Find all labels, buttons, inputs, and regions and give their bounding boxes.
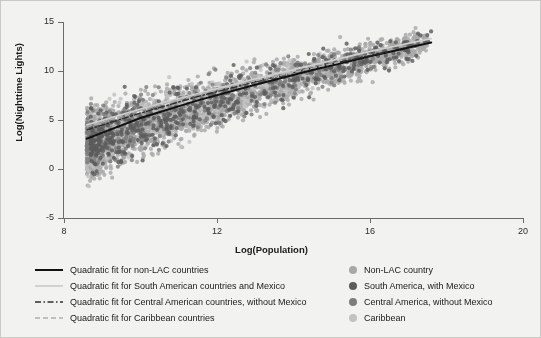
fit-line bbox=[87, 43, 431, 139]
y-tick bbox=[58, 120, 63, 121]
legend-marker-label: South America, with Mexico bbox=[364, 281, 475, 291]
y-tick bbox=[58, 218, 63, 219]
legend-marker-column: Non-LAC countrySouth America, with Mexic… bbox=[349, 262, 539, 326]
legend-line-swatch bbox=[35, 264, 63, 276]
legend-fit-label: Quadratic fit for non-LAC countries bbox=[70, 265, 209, 275]
chart-legend: Quadratic fit for non-LAC countriesQuadr… bbox=[1, 262, 541, 332]
plot-area bbox=[64, 22, 523, 218]
x-tick bbox=[370, 218, 371, 223]
legend-dot-swatch bbox=[349, 282, 357, 290]
y-tick-label: 0 bbox=[28, 163, 54, 173]
legend-line-swatch bbox=[35, 312, 63, 324]
legend-marker-item[interactable]: South America, with Mexico bbox=[349, 278, 539, 294]
legend-dot-swatch bbox=[349, 266, 357, 274]
legend-fit-item[interactable]: Quadratic fit for Central American count… bbox=[35, 294, 355, 310]
legend-marker-label: Central America, without Mexico bbox=[364, 297, 493, 307]
y-axis-line bbox=[63, 22, 64, 219]
x-tick bbox=[523, 218, 524, 223]
x-axis-line bbox=[63, 218, 524, 219]
legend-line-swatch bbox=[35, 280, 63, 292]
y-tick-label: 15 bbox=[28, 16, 54, 26]
legend-dot-swatch bbox=[349, 314, 357, 322]
fit-lines-layer bbox=[64, 22, 523, 218]
x-tick bbox=[217, 218, 218, 223]
y-tick bbox=[58, 169, 63, 170]
x-tick-label: 16 bbox=[355, 226, 385, 236]
x-tick-label: 12 bbox=[202, 226, 232, 236]
x-axis-title: Log(Population) bbox=[1, 244, 541, 255]
legend-fit-label: Quadratic fit for Central American count… bbox=[70, 297, 307, 307]
x-tick bbox=[64, 218, 65, 223]
legend-fit-item[interactable]: Quadratic fit for Caribbean countries bbox=[35, 310, 355, 326]
y-tick bbox=[58, 22, 63, 23]
legend-fit-item[interactable]: Quadratic fit for South American countri… bbox=[35, 278, 355, 294]
legend-marker-item[interactable]: Caribbean bbox=[349, 310, 539, 326]
legend-line-swatch bbox=[35, 296, 63, 308]
y-tick bbox=[58, 71, 63, 72]
y-axis-title: Log(Nighttime Lights) bbox=[13, 33, 24, 153]
legend-dot-swatch bbox=[349, 298, 357, 306]
legend-fit-item[interactable]: Quadratic fit for non-LAC countries bbox=[35, 262, 355, 278]
legend-fit-label: Quadratic fit for South American countri… bbox=[70, 281, 285, 291]
x-tick-label: 8 bbox=[49, 226, 79, 236]
legend-fit-column: Quadratic fit for non-LAC countriesQuadr… bbox=[35, 262, 355, 326]
legend-marker-label: Non-LAC country bbox=[364, 265, 433, 275]
fit-line bbox=[87, 39, 431, 125]
legend-fit-label: Quadratic fit for Caribbean countries bbox=[70, 313, 215, 323]
chart-figure: 151050-58121620 Log(Nighttime Lights) Lo… bbox=[0, 0, 541, 338]
legend-marker-item[interactable]: Non-LAC country bbox=[349, 262, 539, 278]
legend-marker-item[interactable]: Central America, without Mexico bbox=[349, 294, 539, 310]
y-tick-label: 10 bbox=[28, 65, 54, 75]
y-tick-label: -5 bbox=[28, 212, 54, 222]
y-tick-label: 5 bbox=[28, 114, 54, 124]
legend-marker-label: Caribbean bbox=[364, 313, 406, 323]
x-tick-label: 20 bbox=[508, 226, 538, 236]
